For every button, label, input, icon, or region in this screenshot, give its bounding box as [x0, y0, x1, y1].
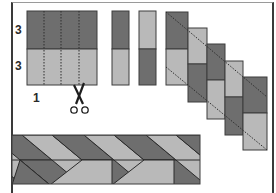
- braided-band: [0, 135, 238, 185]
- label-top-height: 3: [15, 24, 22, 36]
- cut-strip-2-flipped: [139, 11, 156, 85]
- scissors-icon: [71, 83, 88, 113]
- sewn-block: [27, 11, 97, 85]
- staircase-strips: [166, 12, 267, 150]
- label-strip-width: 1: [33, 92, 40, 104]
- quilting-diagram: [0, 0, 276, 193]
- cut-strip-1: [112, 11, 129, 85]
- label-bottom-height: 3: [15, 60, 22, 72]
